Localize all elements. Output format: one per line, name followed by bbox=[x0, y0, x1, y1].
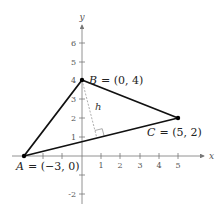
y-tick-5: 5 bbox=[71, 58, 76, 67]
x-tick-4: 4 bbox=[156, 161, 161, 170]
label-a: A= (−3, 0) bbox=[15, 160, 79, 173]
label-a-coords: = (−3, 0) bbox=[28, 160, 80, 173]
point-a bbox=[22, 154, 26, 158]
x-tick-3: 3 bbox=[137, 161, 142, 170]
x-tick-2: 2 bbox=[117, 161, 122, 170]
label-a-name: A bbox=[15, 160, 24, 173]
y-tick-1: 1 bbox=[71, 133, 76, 142]
y-tick-2: 2 bbox=[71, 114, 76, 123]
y-tick-3: 3 bbox=[71, 95, 76, 104]
label-b: B= (0, 4) bbox=[88, 74, 143, 87]
label-c: C= (5, 2) bbox=[147, 126, 202, 139]
x-tick-1: 1 bbox=[98, 161, 103, 170]
label-b-name: B bbox=[88, 74, 97, 87]
altitude-h: h bbox=[82, 80, 104, 138]
label-c-coords: = (5, 2) bbox=[159, 126, 201, 139]
y-tick-neg2: -2 bbox=[68, 190, 76, 199]
y-axis-label: y bbox=[78, 12, 85, 22]
label-b-coords: = (0, 4) bbox=[101, 74, 143, 87]
y-axis: 6 5 4 3 2 1 -2 y bbox=[68, 12, 85, 204]
x-tick-5: 5 bbox=[175, 161, 180, 170]
altitude-label: h bbox=[95, 101, 101, 112]
label-c-name: C bbox=[147, 126, 156, 139]
y-tick-6: 6 bbox=[71, 39, 76, 48]
triangle-diagram: 1 2 3 4 5 x 6 5 4 3 2 1 -2 y h bbox=[0, 0, 220, 215]
x-axis-label: x bbox=[209, 151, 214, 161]
triangle-abc bbox=[22, 78, 180, 158]
point-c bbox=[176, 116, 180, 120]
point-b bbox=[80, 78, 84, 82]
y-tick-4: 4 bbox=[71, 76, 76, 85]
